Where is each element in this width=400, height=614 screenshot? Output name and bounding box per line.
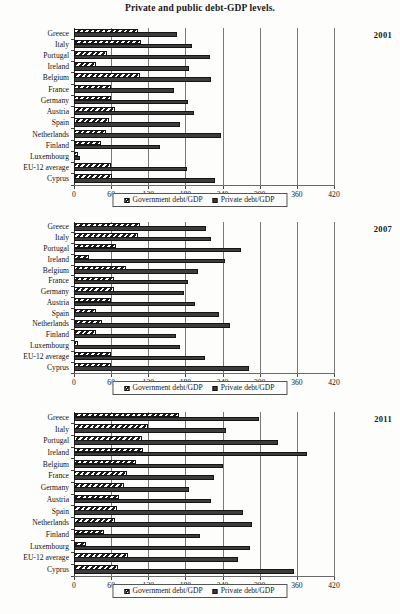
x-tick-mark-420 [334,374,335,377]
bar-government-portugal [74,436,142,441]
x-tick-mark-180 [185,577,186,580]
x-tick-mark-420 [334,186,335,189]
bar-private-finland [74,534,200,539]
category-label-austria: Austria [47,299,69,307]
legend-item-private: Private debt/GDP [213,384,275,392]
category-label-italy: Italy [55,426,69,434]
gridline-120 [148,28,149,186]
gridline-420 [334,222,335,374]
category-label-germany: Germany [41,484,69,492]
gridline-120 [148,222,149,374]
legend-swatch-private-icon [213,589,218,594]
bar-government-germany [74,483,124,488]
bar-government-luxembourg [74,542,86,547]
legend-swatch-private-icon [213,198,218,203]
x-tick-mark-300 [260,374,261,377]
bar-private-luxembourg [74,345,180,349]
bar-government-austria [74,107,115,111]
figure-title: Private and public debt-GDP levels. [0,3,400,13]
bar-government-spain [74,118,109,122]
chart-panel-2011: 2011 GreeceItalyPortugalIrelandBelgiumFr… [0,406,400,614]
legend-item-government: Government debt/GDP [124,587,202,595]
gridline-300 [260,222,261,374]
category-label-netherlands: Netherlands [32,320,69,328]
bar-government-belgium [74,73,140,77]
category-label-finland: Finland [46,331,69,339]
legend-2011: Government debt/GDPPrivate debt/GDP [112,584,287,598]
gridline-420 [334,28,335,186]
bar-government-greece [74,29,138,33]
category-label-greece: Greece [48,223,70,231]
legend-item-government: Government debt/GDP [124,196,202,204]
legend-swatch-government-icon [124,589,129,594]
category-label-spain: Spain [52,508,69,516]
category-label-cyprus: Cyprus [47,175,69,183]
x-tick-label-420: 420 [328,378,339,387]
legend-label-private: Private debt/GDP [221,195,275,204]
category-label-france: France [48,277,69,285]
bar-government-austria [74,495,119,500]
bar-government-eu-12-average [74,553,128,558]
bar-government-portugal [74,51,107,55]
category-label-ireland: Ireland [47,256,69,264]
category-label-france: France [48,472,69,480]
bar-government-ireland [74,255,89,259]
x-tick-label-0: 0 [72,378,76,387]
year-label-2011: 2011 [374,414,392,424]
x-tick-mark-60 [111,374,112,377]
gridline-360 [297,412,298,577]
gridline-240 [223,28,224,186]
gridline-180 [185,28,186,186]
bar-private-luxembourg [74,546,250,551]
legend-2001: Government debt/GDPPrivate debt/GDP [112,193,287,207]
category-label-belgium: Belgium [43,74,69,82]
bar-government-finland [74,141,101,145]
bar-government-belgium [74,266,126,270]
x-tick-label-360: 360 [291,378,302,387]
legend-swatch-government-icon [124,198,129,203]
legend-2007: Government debt/GDPPrivate debt/GDP [112,381,287,395]
gridline-180 [185,222,186,374]
category-label-greece: Greece [48,30,70,38]
gridline-360 [297,28,298,186]
x-tick-mark-300 [260,186,261,189]
bar-government-cyprus [74,174,112,178]
x-tick-mark-180 [185,186,186,189]
category-label-greece: Greece [48,414,70,422]
bar-private-italy [74,428,226,433]
bar-government-greece [74,413,179,418]
category-label-portugal: Portugal [43,52,69,60]
plot-area-2001: GreeceItalyPortugalIrelandBelgiumFranceG… [74,28,334,186]
category-label-netherlands: Netherlands [32,131,69,139]
gridline-240 [223,412,224,577]
bar-government-luxembourg [74,152,78,156]
bar-government-luxembourg [74,341,78,345]
bar-government-cyprus [74,363,111,367]
x-tick-mark-120 [148,374,149,377]
bar-private-netherlands [74,522,252,527]
x-tick-mark-360 [297,374,298,377]
bar-private-greece [74,417,259,422]
plot-area-2011: GreeceItalyPortugalIrelandBelgiumFranceG… [74,412,334,577]
legend-item-government: Government debt/GDP [124,384,202,392]
bar-government-france [74,277,114,281]
bar-private-belgium [74,464,223,469]
bar-government-spain [74,309,96,313]
gridline-300 [260,28,261,186]
x-tick-mark-60 [111,186,112,189]
x-tick-label-360: 360 [291,190,302,199]
bar-government-portugal [74,244,116,248]
legend-label-private: Private debt/GDP [221,586,275,595]
category-label-eu-12-average: EU-12 average [23,353,69,361]
category-label-germany: Germany [41,288,69,296]
bar-private-portugal [74,440,278,445]
category-label-italy: Italy [55,234,69,242]
bar-private-cyprus [74,569,294,574]
gridline-240 [223,222,224,374]
x-tick-mark-180 [185,374,186,377]
category-label-italy: Italy [55,41,69,49]
x-tick-mark-120 [148,577,149,580]
category-label-eu-12-average: EU-12 average [23,164,69,172]
category-label-germany: Germany [41,97,69,105]
gridline-300 [260,412,261,577]
